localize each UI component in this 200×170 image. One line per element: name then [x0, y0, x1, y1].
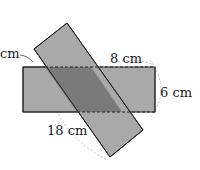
- label-length: 18 cm: [47, 123, 87, 138]
- overlapping-rectangles-diagram: cm 8 cm 6 cm 18 cm: [0, 0, 200, 170]
- pointer-arrow: [20, 55, 33, 62]
- label-top-left: cm: [0, 46, 20, 61]
- label-width: 8 cm: [110, 51, 142, 66]
- label-height: 6 cm: [160, 85, 192, 100]
